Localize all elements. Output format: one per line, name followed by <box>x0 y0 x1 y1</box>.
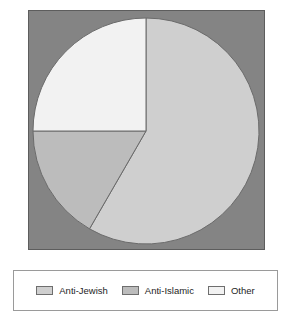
pie-slice-other[interactable] <box>33 18 146 131</box>
legend-swatch-icon-anti-jewish <box>36 286 53 295</box>
pie-slice-group <box>33 18 259 244</box>
pie-chart-figure: Anti-Jewish Anti-Islamic Other <box>0 0 291 323</box>
chart-legend: Anti-Jewish Anti-Islamic Other <box>13 270 278 311</box>
legend-item-anti-islamic[interactable]: Anti-Islamic <box>122 286 194 296</box>
legend-item-anti-jewish[interactable]: Anti-Jewish <box>36 286 108 296</box>
pie-chart <box>0 0 291 260</box>
legend-item-other[interactable]: Other <box>208 286 255 296</box>
legend-label-anti-islamic: Anti-Islamic <box>145 286 194 296</box>
legend-label-other: Other <box>231 286 255 296</box>
legend-item-list: Anti-Jewish Anti-Islamic Other <box>36 286 254 296</box>
legend-label-anti-jewish: Anti-Jewish <box>59 286 108 296</box>
legend-swatch-icon-other <box>208 286 225 295</box>
legend-swatch-icon-anti-islamic <box>122 286 139 295</box>
